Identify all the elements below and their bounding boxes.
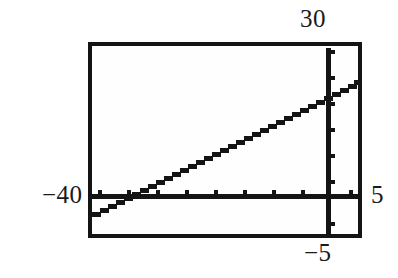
x-min-label: −40 [42,182,83,207]
plot-frame [88,42,362,238]
y-min-label: −5 [304,240,332,265]
graph-figure: 30 −40 5 −5 [0,0,398,278]
plot-graphics [92,46,358,234]
x-max-label: 5 [371,182,384,207]
plot-surface [92,46,358,234]
y-max-label: 30 [300,6,326,31]
y-axis [326,48,335,234]
y-axis-ticks [331,50,335,226]
